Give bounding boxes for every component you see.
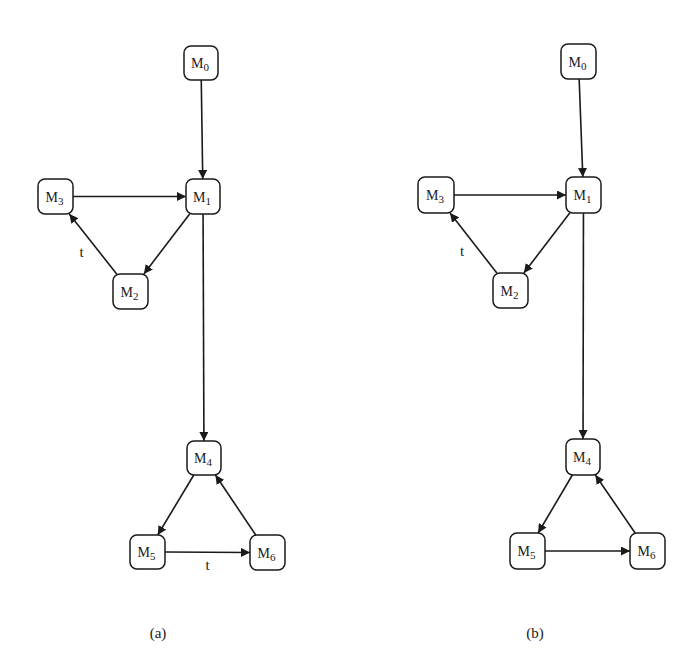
edge-m2-to-m3 [69,214,116,274]
edge-m6-to-m4 [595,475,635,533]
state-node-m2: M2 [493,273,528,308]
panel-a: ttM0M1M3M2M4M5M6 [38,46,285,573]
state-node-m6: M6 [250,535,285,570]
state-node-m3: M3 [38,179,73,214]
state-node-m2: M2 [113,274,148,309]
state-node-m1: M1 [566,177,601,213]
edge-label-m2-m3: t [460,243,465,259]
edge-m1-to-m4 [203,214,204,441]
state-node-m0: M0 [561,44,596,79]
edge-m1-to-m2 [524,213,570,273]
edge-m4-to-m5 [158,475,194,535]
state-node-m4: M4 [187,441,221,475]
edge-label-m5-m6: t [205,557,210,573]
edge-m0-to-m1 [201,80,202,179]
caption-a: (a) [150,625,167,642]
edge-m4-to-m5 [538,475,572,533]
edge-m6-to-m4 [215,475,255,535]
state-node-m5: M5 [130,535,165,569]
edge-m2-to-m3 [450,213,497,273]
state-node-m4: M4 [566,439,600,475]
state-node-m1: M1 [186,179,220,214]
state-node-m5: M5 [510,533,545,569]
edge-m1-to-m2 [144,214,190,274]
caption-b: (b) [526,625,544,642]
state-node-m0: M0 [184,46,218,80]
state-node-m3: M3 [418,177,454,213]
edge-label-m2-m3: t [79,244,84,260]
state-transition-diagram: ttM0M1M3M2M4M5M6 tM0M1M3M2M4M5M6 (a) (b) [0,0,695,672]
panel-b: tM0M1M3M2M4M5M6 [418,44,665,569]
state-node-m6: M6 [630,533,665,569]
edge-m0-to-m1 [579,79,583,177]
